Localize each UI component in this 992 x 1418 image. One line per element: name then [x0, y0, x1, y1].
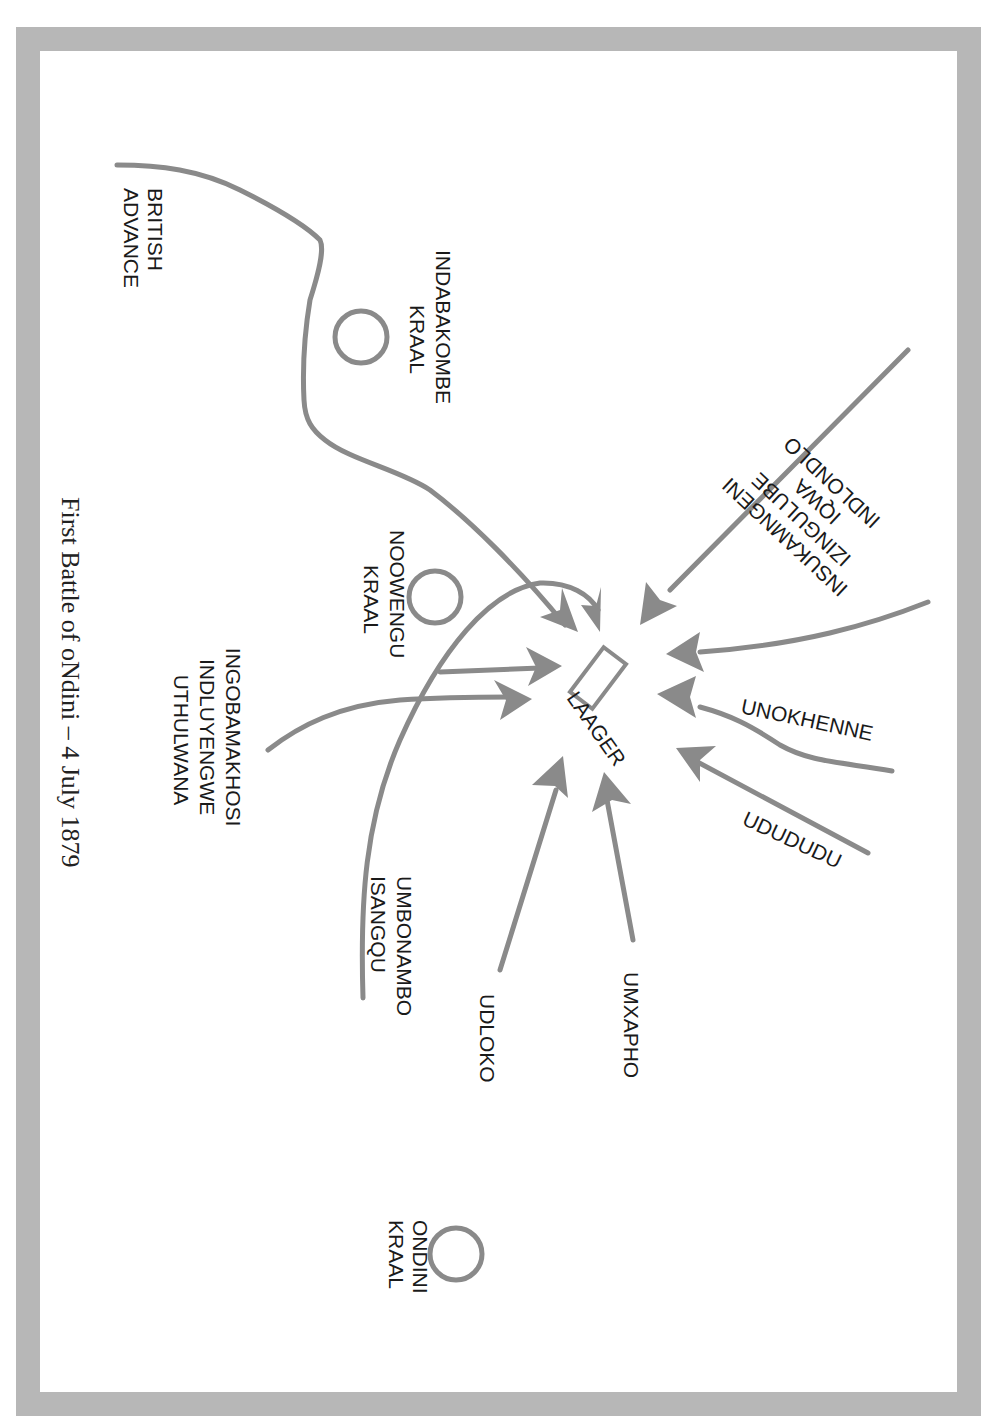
unokhenne-arrowhead [657, 676, 696, 718]
northern-regiments-label: INSUKAMNGENI IZINGULUBE IQWA INDLONDLO [713, 417, 901, 601]
battle-map: First Battle of oNdini – 4 July 1879 BRI… [0, 0, 992, 1418]
noowengu-kraal-label: NOOWENGU KRAAL [360, 530, 409, 664]
british-advance-route [117, 165, 565, 625]
noowengu-line2: KRAAL [360, 565, 383, 634]
ingobamakhosi-line1: INGOBAMAKHOSI [222, 648, 245, 827]
indabakombe-line2: KRAAL [406, 305, 429, 374]
umbonambo-line2: ISANGQU [367, 876, 390, 973]
umbonambo-label: UMBONAMBO ISANGQU [367, 876, 416, 1022]
indlondlo-route [700, 602, 928, 652]
ondini-line2: KRAAL [385, 1220, 408, 1289]
ingobamakhosi-line3: UTHULWANA [170, 675, 193, 806]
ingobamakhosi-line2: INDLUYENGWE [196, 659, 219, 815]
umxapho-label: UMXAPHO [620, 972, 643, 1078]
ondini-kraal-label: ONDINI KRAAL [385, 1220, 432, 1299]
map-title: First Battle of oNdini – 4 July 1879 [56, 497, 85, 868]
umbonambo-line1: UMBONAMBO [393, 876, 416, 1016]
udloko-route [500, 790, 556, 970]
umxapho-arrowhead [592, 772, 631, 812]
ududu-arrowhead [676, 746, 716, 782]
ingobamakhosi-route [268, 697, 510, 750]
unokhenne-label: UNOKHENNE [739, 694, 875, 744]
ududu-label: UDUDUDU [739, 807, 845, 873]
ingobamakhosi-branch-upper [440, 668, 540, 672]
umxapho-route [607, 800, 633, 940]
ondini-kraal-icon [430, 1228, 482, 1280]
ingobamakhosi-label: INGOBAMAKHOSI INDLUYENGWE UTHULWANA [170, 648, 245, 832]
british-advance-line2: ADVANCE [120, 188, 143, 288]
british-advance-arrowhead [540, 588, 578, 632]
ondini-line1: ONDINI [409, 1220, 432, 1294]
noowengu-line1: NOOWENGU [386, 530, 409, 658]
indabakombe-line1: INDABAKOMBE [432, 250, 455, 404]
ingobamakhosi-arrowhead-lower [494, 680, 532, 720]
british-advance-label: BRITISH ADVANCE [120, 188, 167, 288]
udloko-arrowhead [532, 756, 568, 798]
british-advance-line1: BRITISH [144, 188, 167, 271]
indabakombe-kraal-label: INDABAKOMBE KRAAL [406, 250, 455, 410]
indabakombe-kraal-icon [335, 311, 387, 363]
udloko-label: UDLOKO [476, 994, 499, 1083]
noowengu-kraal-icon [409, 571, 461, 623]
